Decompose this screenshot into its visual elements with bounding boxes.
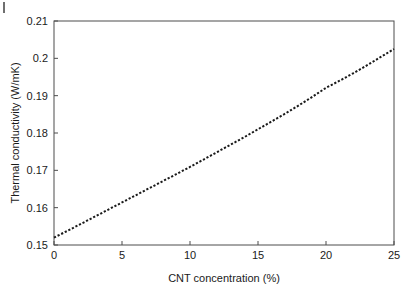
y-tick-label: 0.21 [27,15,48,27]
y-tick-label: 0.17 [27,164,48,176]
y-axis-tick-labels: 0.150.160.170.180.190.20.21 [27,15,48,251]
page-corner-mark [3,2,5,13]
x-axis-label: CNT concentration (%) [168,272,280,284]
thermal-conductivity-line-chart: 0510152025 0.150.160.170.180.190.20.21 C… [0,0,417,293]
x-tick-label: 15 [252,249,264,261]
x-tick-label: 10 [184,249,196,261]
y-tick-label: 0.19 [27,90,48,102]
x-tick-label: 25 [388,249,400,261]
x-tick-label: 5 [119,249,125,261]
y-axis-label: Thermal conductivity (W/mK) [9,62,21,203]
x-axis-tick-labels: 0510152025 [51,249,400,261]
y-tick-label: 0.16 [27,202,48,214]
x-tick-label: 0 [51,249,57,261]
figure-canvas: 0510152025 0.150.160.170.180.190.20.21 C… [0,0,417,293]
x-tick-label: 20 [320,249,332,261]
y-tick-label: 0.2 [33,52,48,64]
y-tick-label: 0.15 [27,239,48,251]
y-tick-label: 0.18 [27,127,48,139]
